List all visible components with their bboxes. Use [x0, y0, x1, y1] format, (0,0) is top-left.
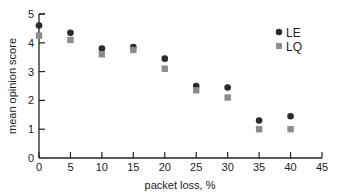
point-lq [99, 51, 105, 57]
legend-label: LE [286, 26, 301, 40]
point-lq [67, 37, 73, 43]
x-tick-label: 15 [127, 161, 139, 173]
point-lq [162, 66, 168, 72]
point-le [99, 45, 106, 52]
legend-label: LQ [286, 40, 302, 54]
legend: LELQ [276, 26, 302, 54]
y-tick-label: 1 [28, 123, 34, 135]
x-tick-label: 20 [159, 161, 171, 173]
point-le [161, 55, 168, 62]
point-le [36, 22, 43, 29]
scatter-chart: 051015202530354045012345 LELQ packet los… [0, 0, 343, 196]
x-tick-label: 0 [36, 161, 42, 173]
x-tick-label: 35 [253, 161, 265, 173]
point-le [287, 113, 294, 120]
x-axis-label: packet loss, % [145, 179, 216, 191]
legend-marker-circle-icon [276, 29, 282, 35]
point-lq [224, 94, 230, 100]
y-tick-label: 4 [28, 37, 34, 49]
x-tick-label: 10 [96, 161, 108, 173]
y-tick-label: 0 [28, 152, 34, 164]
point-le [67, 29, 74, 36]
y-tick-label: 5 [28, 8, 34, 20]
y-tick-label: 3 [28, 66, 34, 78]
point-le [224, 84, 231, 91]
x-tick-label: 30 [222, 161, 234, 173]
x-tick-label: 40 [284, 161, 296, 173]
x-tick-label: 45 [316, 161, 328, 173]
point-lq [36, 32, 42, 38]
y-axis-label: mean opinion score [6, 38, 18, 134]
data-points [36, 22, 294, 132]
point-le [256, 117, 263, 124]
y-tick-label: 2 [28, 94, 34, 106]
point-lq [193, 87, 199, 93]
point-lq [256, 126, 262, 132]
point-lq [130, 47, 136, 53]
legend-marker-square-icon [276, 43, 282, 49]
x-tick-label: 5 [67, 161, 73, 173]
point-lq [287, 126, 293, 132]
x-tick-label: 25 [190, 161, 202, 173]
